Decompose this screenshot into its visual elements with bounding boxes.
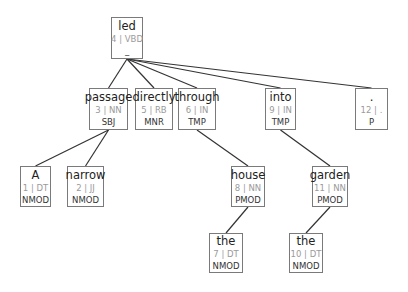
tree-edges [0,0,408,292]
node-index-pos: 11 | NN [314,182,346,194]
node-index-pos: 9 | IN [269,104,292,116]
edge-through-house [197,130,248,166]
node-relation: TMP [272,116,290,128]
node-index-pos: 6 | IN [186,104,209,116]
node-word: directly [133,90,176,104]
node-relation: NMOD [213,260,240,272]
node-passage[interactable]: passage 3 | NN SBJ [89,88,128,130]
node-led[interactable]: led 4 | VBD _ [111,17,143,59]
node-relation: PMOD [235,194,261,206]
node-index-pos: 7 | DT [213,248,238,260]
node-a[interactable]: A 1 | DT NMOD [20,166,51,207]
node-word: . [370,90,374,104]
edge-led-directly [127,59,154,88]
edge-house-the [226,207,248,233]
node-relation: SBJ [102,116,116,128]
node-relation: _ [125,45,129,57]
node-into[interactable]: into 9 | IN TMP [265,88,296,130]
dependency-tree: led 4 | VBD _ passage 3 | NN SBJ directl… [0,0,408,292]
node-index-pos: 3 | NN [95,104,121,116]
edge-passage-narrow [86,130,109,166]
edge-into-garden [281,130,331,166]
node-word: through [174,90,219,104]
node-word: led [118,19,136,33]
edge-led-passage [109,59,128,88]
node-index-pos: 8 | NN [235,182,261,194]
node-word: narrow [66,168,106,182]
node-relation: MNR [144,116,164,128]
node-relation: NMOD [293,260,320,272]
node-word: into [269,90,291,104]
node-index-pos: 2 | JJ [76,182,95,194]
node-word: house [231,168,266,182]
node-relation: NMOD [22,194,49,206]
node-directly[interactable]: directly 5 | RB MNR [135,88,173,130]
node-relation: NMOD [72,194,99,206]
node-garden[interactable]: garden 11 | NN PMOD [312,166,348,207]
node-index-pos: 5 | RB [141,104,166,116]
edge-led-period [127,59,372,88]
edge-passage-a [36,130,109,166]
node-relation: TMP [188,116,206,128]
node-index-pos: 12 | . [361,104,383,116]
node-word: A [32,168,40,182]
node-word: garden [310,168,351,182]
node-index-pos: 10 | DT [291,248,322,260]
node-period[interactable]: . 12 | . P [355,88,388,130]
node-index-pos: 4 | VBD [111,33,143,45]
node-word: passage [85,90,133,104]
edge-led-through [127,59,197,88]
edge-garden-the [306,207,330,233]
node-narrow[interactable]: narrow 2 | JJ NMOD [67,166,104,207]
node-relation: PMOD [317,194,343,206]
node-index-pos: 1 | DT [23,182,48,194]
node-word: the [297,234,316,248]
edge-led-into [127,59,281,88]
node-through[interactable]: through 6 | IN TMP [178,88,216,130]
node-word: the [217,234,236,248]
node-relation: P [369,116,374,128]
node-the-7[interactable]: the 7 | DT NMOD [209,233,243,273]
node-house[interactable]: house 8 | NN PMOD [231,166,265,207]
node-the-10[interactable]: the 10 | DT NMOD [289,233,323,273]
